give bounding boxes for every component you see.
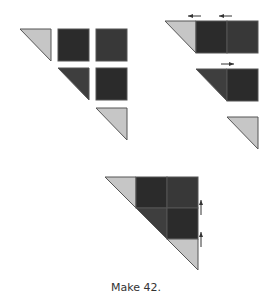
sewn-rows-panel	[165, 16, 258, 149]
dark-square-piece	[227, 69, 258, 101]
dark-square-piece	[136, 177, 167, 208]
dark-triangle-piece	[196, 69, 227, 101]
dark-square-piece	[227, 21, 258, 53]
figure-caption: Make 42.	[0, 281, 272, 294]
dark-square-piece	[196, 21, 227, 53]
light-triangle-piece	[105, 177, 136, 208]
light-triangle-piece	[165, 21, 196, 53]
light-triangle-piece	[96, 108, 127, 140]
light-triangle-piece	[167, 239, 198, 270]
loose-pieces-panel	[20, 29, 127, 140]
dark-square-piece	[167, 177, 198, 208]
dark-square-piece	[96, 68, 127, 100]
dark-triangle-piece	[58, 68, 89, 100]
light-triangle-piece	[20, 29, 51, 61]
quilt-diagram	[0, 0, 272, 302]
assembled-unit-panel	[105, 177, 201, 270]
dark-square-piece	[96, 29, 127, 61]
dark-square-piece	[58, 29, 89, 61]
dark-square-piece	[167, 208, 198, 239]
light-triangle-piece	[227, 117, 258, 149]
dark-triangle-piece	[136, 208, 167, 239]
